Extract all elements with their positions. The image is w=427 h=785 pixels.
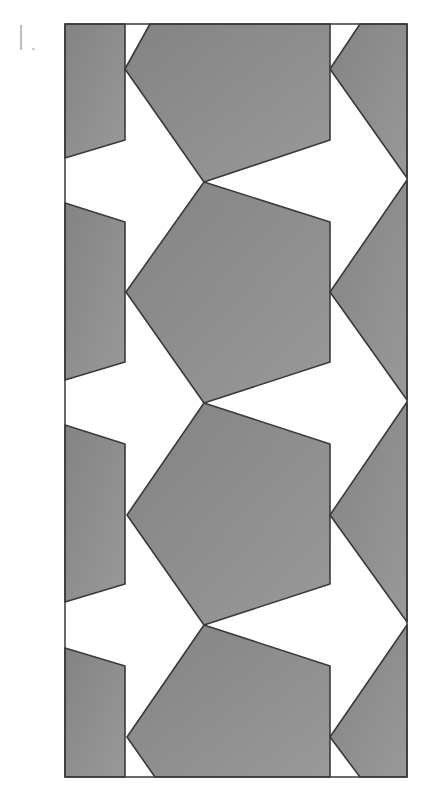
left-tile-2: [65, 203, 125, 380]
left-tile-1: [65, 24, 125, 158]
pentagon-tiling: [0, 0, 427, 785]
left-tile-4: [65, 648, 125, 777]
left-tile-3: [65, 425, 125, 602]
